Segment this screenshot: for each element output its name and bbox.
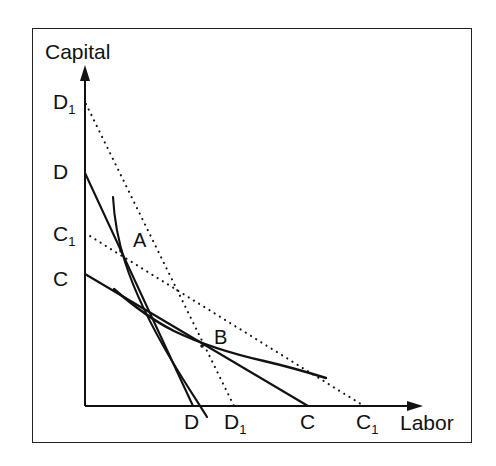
figure-frame: A B D1 D C1 C D (32, 28, 472, 443)
tangency-point-B-marker (200, 344, 204, 348)
x-label-C1: C1 (356, 410, 378, 437)
y-axis-arrowhead (80, 65, 90, 81)
isocost-lines-group (85, 104, 364, 406)
tangency-point-A-marker (119, 249, 123, 253)
x-label-D: D (184, 410, 199, 433)
figure-page: A B D1 D C1 C D (0, 0, 496, 466)
y-axis-labels-group: D1 D C1 C (53, 90, 75, 290)
x-axis-arrowhead (407, 401, 423, 411)
y-label-D1: D1 (53, 90, 75, 117)
x-label-C: C (300, 410, 315, 433)
x-axis-labels-group: D D1 C C1 (184, 410, 378, 437)
x-label-D1: D1 (224, 410, 246, 437)
y-axis-title: Capital (45, 40, 110, 63)
y-label-D: D (53, 160, 68, 183)
y-label-C1: C1 (53, 222, 75, 249)
isoquant-isocost-chart: A B D1 D C1 C D (33, 29, 470, 441)
x-axis-title: Labor (400, 411, 454, 434)
isocost-line-D1D1 (86, 104, 234, 406)
isoquant-curve-A (113, 197, 207, 417)
point-label-A: A (133, 229, 147, 251)
tangency-points-group (119, 249, 204, 348)
isocost-line-C1C1 (85, 233, 364, 406)
y-label-C: C (53, 267, 68, 290)
point-label-B: B (214, 326, 227, 348)
